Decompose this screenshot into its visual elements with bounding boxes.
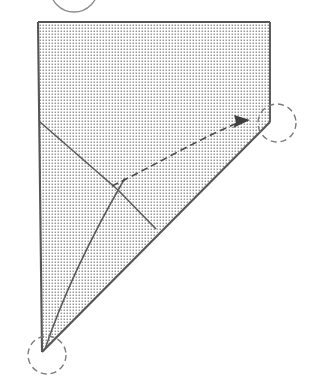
circle-marker-top-icon	[50, 0, 98, 12]
paper-sheet-fill	[38, 22, 270, 352]
fold-diagram-canvas	[0, 0, 314, 382]
fold-diagram-svg	[0, 0, 314, 382]
